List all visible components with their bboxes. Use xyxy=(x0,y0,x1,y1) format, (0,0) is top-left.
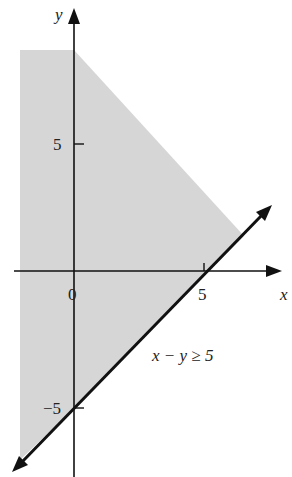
y-axis-arrow-icon xyxy=(68,8,80,24)
y-tick-label-neg5: −5 xyxy=(43,399,61,418)
x-tick-label-0: 0 xyxy=(68,285,77,304)
inequality-label: x − y ≥ 5 xyxy=(151,346,213,365)
x-axis-arrow-icon xyxy=(266,265,282,277)
x-tick-label-5: 5 xyxy=(198,285,207,304)
inequality-graph: y x 0 5 5 −5 x − y ≥ 5 xyxy=(0,0,292,477)
x-axis-label: x xyxy=(279,285,288,304)
y-tick-label-5: 5 xyxy=(53,135,62,154)
y-axis-label: y xyxy=(53,5,63,24)
